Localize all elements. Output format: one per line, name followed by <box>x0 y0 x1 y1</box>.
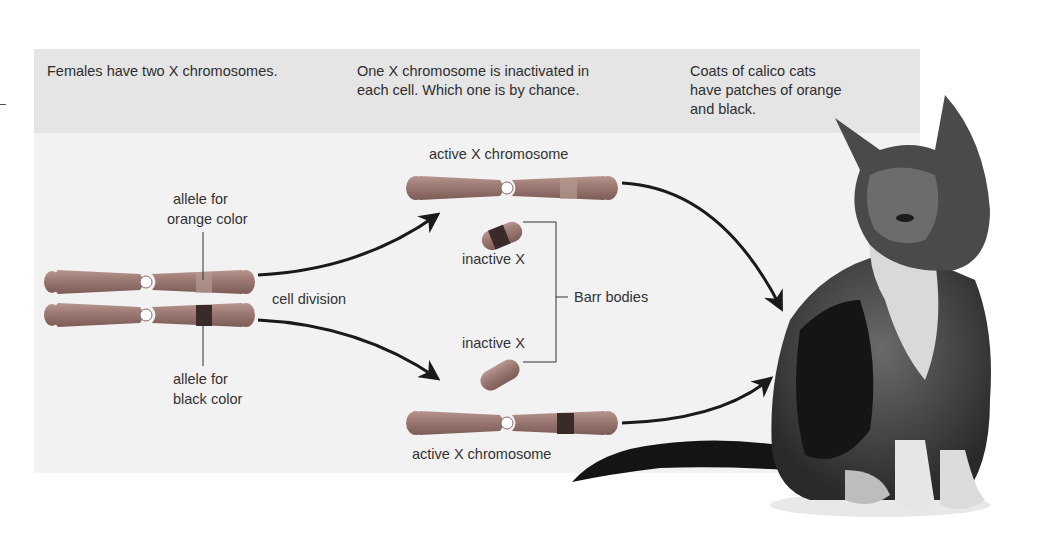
label-active-x-bottom: active X chromosome <box>412 445 551 464</box>
label-allele-black-1: allele for <box>173 370 228 389</box>
arrow-icon <box>622 379 770 423</box>
label-inactive-x-top: inactive X <box>462 250 525 269</box>
label-cell-division: cell division <box>272 290 346 309</box>
label-allele-black-2: black color <box>173 390 242 409</box>
label-active-x-top: active X chromosome <box>429 145 568 164</box>
active-x-bottom <box>406 411 618 435</box>
chromosome-pair <box>44 232 255 366</box>
active-x-top <box>406 176 618 200</box>
barr-body-top <box>479 219 525 253</box>
label-allele-orange-2: orange color <box>167 210 248 229</box>
barr-bracket <box>523 222 556 362</box>
label-inactive-x-bottom: inactive X <box>462 334 525 353</box>
arrow-icon <box>258 215 437 275</box>
barr-body-bottom <box>477 356 523 394</box>
label-barr-bodies: Barr bodies <box>574 288 648 307</box>
label-allele-orange-1: allele for <box>173 190 228 209</box>
arrow-icon <box>258 320 437 378</box>
